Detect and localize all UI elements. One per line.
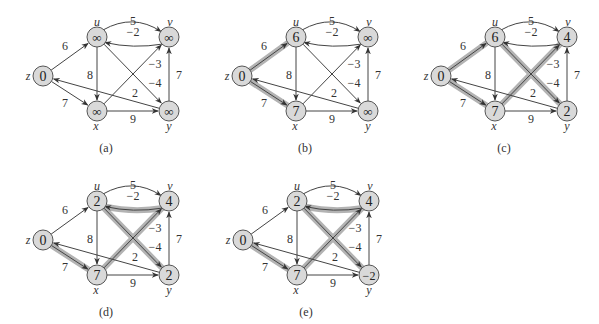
edge-weight-zu: 6: [460, 39, 466, 53]
vertex-name-z: z: [225, 233, 231, 247]
edge-v-u: [105, 43, 163, 47]
vertex-name-y: y: [165, 283, 172, 297]
edge-weight-zx: 7: [460, 96, 466, 110]
vertex-name-y: y: [365, 283, 372, 297]
vertex-name-z: z: [25, 69, 31, 83]
edge-weight-xy: 9: [528, 112, 534, 126]
edge-weight-xv: −3: [149, 221, 162, 235]
vertex-name-v: v: [167, 179, 173, 193]
edge-weight-yz: 2: [332, 250, 338, 264]
vertex-name-u: u: [94, 179, 100, 193]
edge-weight-xv: −3: [349, 221, 362, 235]
vertex-distance-v: 4: [166, 194, 173, 209]
edge-weight-zx: 7: [62, 96, 68, 110]
vertex-name-v: v: [565, 15, 571, 29]
vertex-distance-v: ∞: [164, 30, 173, 45]
vertex-distance-v: 4: [564, 30, 571, 45]
vertex-name-v: v: [367, 179, 373, 193]
edge-weight-yv: 7: [574, 68, 580, 82]
edge-weight-ux: 8: [87, 68, 93, 82]
edge-z-x: [251, 245, 287, 269]
vertex-name-y: y: [563, 119, 570, 133]
edge-z-x: [449, 81, 485, 105]
graph-panel-d: 675−28−3−47290z2u4v7x2y(d): [25, 178, 182, 319]
edge-v-u: [304, 43, 362, 47]
edge-weight-uy: −4: [547, 76, 560, 90]
edge-weight-vu: −2: [525, 25, 538, 39]
vertex-name-x: x: [291, 119, 298, 133]
vertex-distance-y: 2: [166, 268, 173, 283]
edge-weight-xy: 9: [329, 112, 335, 126]
vertex-distance-x: ∞: [92, 104, 101, 119]
panel-caption: (b): [298, 141, 312, 155]
vertex-name-y: y: [364, 119, 371, 133]
vertex-distance-x: 7: [492, 104, 499, 119]
graph-panel-b: 675−28−3−47290z6u∞v7x∞y(b): [224, 14, 381, 155]
vertex-name-z: z: [423, 69, 429, 83]
edge-weight-yz: 2: [132, 86, 138, 100]
edge-weight-zu: 6: [262, 203, 268, 217]
vertex-distance-z: 0: [40, 233, 47, 248]
edge-weight-xy: 9: [130, 112, 136, 126]
edge-z-u: [51, 43, 88, 70]
vertex-distance-z: 0: [239, 69, 246, 84]
vertex-distance-u: 6: [293, 30, 300, 45]
edge-weight-ux: 8: [287, 232, 293, 246]
edge-z-u: [449, 43, 486, 70]
edge-weight-vu: −2: [326, 25, 339, 39]
edge-weight-ux: 8: [485, 68, 491, 82]
vertex-name-u: u: [94, 15, 100, 29]
edge-weight-zx: 7: [262, 260, 268, 274]
vertex-distance-v: ∞: [363, 30, 372, 45]
vertex-name-u: u: [294, 179, 300, 193]
edge-weight-xy: 9: [130, 276, 136, 290]
vertex-distance-y: 2: [564, 104, 571, 119]
edge-weight-xy: 9: [330, 276, 336, 290]
vertex-distance-x: 7: [293, 104, 300, 119]
edge-weight-yv: 7: [176, 68, 182, 82]
edge-weight-vu: −2: [127, 189, 140, 203]
edge-weight-yv: 7: [376, 232, 382, 246]
edge-weight-zu: 6: [62, 39, 68, 53]
edge-weight-yv: 7: [375, 68, 381, 82]
edge-weight-ux: 8: [286, 68, 292, 82]
vertex-distance-u: ∞: [92, 30, 101, 45]
vertex-distance-y: ∞: [363, 104, 372, 119]
edge-weight-zu: 6: [62, 203, 68, 217]
edge-weight-vu: −2: [127, 25, 140, 39]
edge-z-x: [51, 245, 87, 269]
panel-caption: (a): [99, 141, 112, 155]
vertex-distance-x: 7: [294, 268, 301, 283]
vertex-distance-u: 2: [94, 194, 101, 209]
vertex-distance-y: ∞: [164, 104, 173, 119]
graph-panel-a: 675−28−3−47290z∞u∞v∞x∞y(a): [25, 14, 182, 155]
vertex-distance-y: −2: [363, 269, 376, 283]
panel-caption: (d): [99, 305, 113, 319]
vertex-name-v: v: [366, 15, 372, 29]
graph-panel-c: 675−28−3−47290z6u4v7x2y(c): [423, 14, 580, 155]
edge-weight-uy: −4: [149, 76, 162, 90]
edge-v-u: [503, 43, 561, 47]
vertex-name-z: z: [25, 233, 31, 247]
edge-z-u: [250, 43, 287, 70]
vertex-distance-z: 0: [240, 233, 247, 248]
edge-z-x: [250, 81, 286, 105]
edge-weight-xv: −3: [149, 57, 162, 71]
edge-weight-yz: 2: [530, 86, 536, 100]
edge-weight-uy: −4: [348, 76, 361, 90]
vertex-distance-z: 0: [40, 69, 47, 84]
vertex-name-u: u: [293, 15, 299, 29]
vertex-distance-x: 7: [94, 268, 101, 283]
vertex-distance-v: 4: [366, 194, 373, 209]
vertex-name-x: x: [292, 283, 299, 297]
vertex-distance-u: 2: [294, 194, 301, 209]
vertex-name-x: x: [92, 283, 99, 297]
edge-weight-xv: −3: [547, 57, 560, 71]
edge-z-u: [251, 207, 288, 234]
edge-weight-ux: 8: [87, 232, 93, 246]
edge-weight-zx: 7: [261, 96, 267, 110]
edge-weight-yv: 7: [176, 232, 182, 246]
vertex-name-x: x: [92, 119, 99, 133]
edge-weight-yz: 2: [331, 86, 337, 100]
edge-weight-zu: 6: [261, 39, 267, 53]
